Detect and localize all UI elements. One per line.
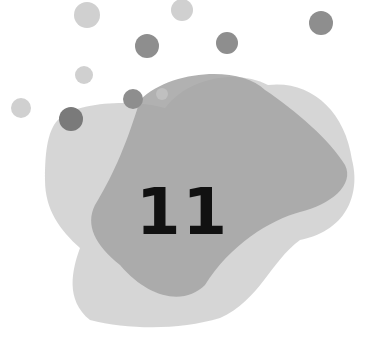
dot xyxy=(74,2,100,28)
number-label: 11 xyxy=(136,180,229,244)
dot xyxy=(171,0,193,21)
dot xyxy=(309,11,333,35)
dot xyxy=(135,34,159,58)
dot xyxy=(59,107,83,131)
number-badge-graphic: 11 xyxy=(0,0,372,351)
dot xyxy=(11,98,31,118)
dot xyxy=(156,88,168,100)
dot xyxy=(75,66,93,84)
dot xyxy=(216,32,238,54)
dot xyxy=(123,89,143,109)
